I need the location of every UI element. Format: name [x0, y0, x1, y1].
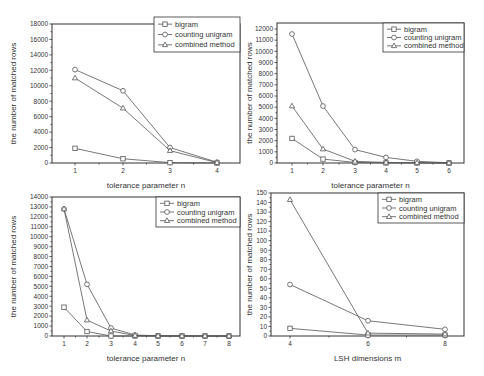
x-tick-label: 2	[321, 167, 325, 174]
y-tick-label: 18000	[30, 20, 48, 27]
legend-label: combined method	[399, 212, 459, 221]
x-tick-label: 2	[121, 167, 125, 174]
x-tick-label: 4	[384, 167, 388, 174]
chart-1: 0200040006000800010000120001400016000180…	[9, 17, 240, 190]
square-marker-icon	[288, 326, 292, 330]
chart-3: 0100020003000400050006000700080009000100…	[9, 193, 240, 363]
triangle-marker-icon	[84, 317, 89, 322]
legend: bigramcounting unigramcombined method	[378, 193, 464, 223]
y-tick-label: 10000	[255, 48, 273, 55]
y-tick-label: 12000	[30, 213, 48, 220]
circle-marker-icon	[366, 318, 371, 323]
y-tick-label: 70	[260, 266, 268, 273]
y-tick-label: 8000	[34, 98, 49, 105]
y-tick-label: 2000	[34, 144, 49, 151]
x-tick-label: 4	[133, 340, 137, 347]
y-tick-label: 150	[256, 189, 267, 196]
series-counting-unigram	[73, 67, 220, 164]
y-tick-label: 3000	[259, 126, 274, 133]
y-tick-label: 10000	[30, 233, 48, 240]
y-tick-label: 100	[256, 237, 267, 244]
y-axis-label: the number of matched rows	[245, 214, 254, 315]
y-tick-label: 13000	[30, 203, 48, 210]
series-line	[64, 209, 229, 336]
y-tick-label: 6000	[259, 92, 274, 99]
legend-square-icon	[387, 197, 391, 201]
series-bigram	[290, 136, 451, 165]
x-tick-label: 1	[62, 340, 66, 347]
series-combined-method	[72, 75, 219, 164]
y-tick-label: 12000	[255, 25, 273, 32]
legend: bigramcounting unigramcombined method	[154, 17, 240, 52]
chart-4: 0102030405060708090100110120130140150468…	[245, 189, 464, 363]
legend-square-icon	[392, 27, 396, 31]
legend-label: counting unigram	[399, 204, 457, 213]
x-tick-label: 1	[73, 167, 77, 174]
y-tick-label: 0	[44, 159, 48, 166]
y-tick-label: 6000	[34, 273, 49, 280]
x-tick-label: 1	[290, 167, 294, 174]
square-marker-icon	[109, 334, 113, 338]
circle-marker-icon	[73, 67, 78, 72]
x-axis-label: LSH dimensions m	[334, 354, 401, 363]
y-axis-label: the number of matched rows	[245, 42, 254, 143]
y-tick-label: 9000	[34, 243, 49, 250]
x-tick-label: 6	[447, 167, 451, 174]
y-tick-label: 16000	[30, 36, 48, 43]
x-tick-label: 4	[288, 340, 292, 347]
y-tick-label: 7000	[259, 81, 274, 88]
y-tick-label: 110	[257, 227, 268, 234]
x-tick-label: 3	[109, 340, 113, 347]
x-axis-label: tolerance parameter n	[107, 354, 185, 363]
y-tick-label: 50	[260, 285, 268, 292]
y-tick-label: 12000	[30, 67, 48, 74]
series-line	[292, 34, 449, 163]
y-tick-label: 140	[256, 199, 267, 206]
y-tick-label: 14000	[30, 193, 48, 200]
y-tick-label: 4000	[259, 115, 274, 122]
circle-marker-icon	[290, 32, 295, 37]
square-marker-icon	[321, 157, 325, 161]
x-tick-label: 4	[215, 167, 219, 174]
legend-label: combined method	[177, 216, 237, 225]
legend-circle-icon	[163, 32, 168, 37]
triangle-marker-icon	[120, 105, 125, 110]
y-tick-label: 14000	[30, 51, 48, 58]
square-marker-icon	[168, 160, 172, 164]
triangle-marker-icon	[289, 103, 294, 108]
circle-marker-icon	[353, 147, 358, 152]
y-tick-label: 1000	[34, 322, 49, 329]
legend-label: bigram	[177, 199, 200, 208]
y-tick-label: 8000	[259, 70, 274, 77]
triangle-marker-icon	[287, 197, 292, 202]
legend-circle-icon	[165, 210, 170, 215]
series-line	[75, 78, 217, 163]
square-marker-icon	[290, 136, 294, 140]
y-tick-label: 7000	[34, 263, 49, 270]
legend: bigramcounting unigramcombined method	[383, 23, 464, 52]
series-line	[292, 138, 449, 163]
y-tick-label: 5000	[34, 283, 49, 290]
square-marker-icon	[62, 305, 66, 309]
y-tick-label: 2000	[34, 312, 49, 319]
x-tick-label: 3	[353, 167, 357, 174]
series-combined-method	[289, 103, 451, 165]
charts-figure: 0200040006000800010000120001400016000180…	[0, 0, 484, 376]
legend-label: bigram	[399, 195, 422, 204]
y-tick-label: 40	[260, 294, 268, 301]
triangle-marker-icon	[72, 75, 77, 80]
series-line	[75, 70, 217, 163]
legend-square-icon	[163, 22, 167, 26]
y-tick-label: 10000	[30, 82, 48, 89]
legend-circle-icon	[392, 35, 397, 40]
circle-marker-icon	[85, 282, 90, 287]
y-axis-label: the number of matched rows	[9, 216, 18, 317]
x-tick-label: 6	[366, 340, 370, 347]
chart-2: 0100020003000400050006000700080009000100…	[245, 23, 464, 190]
y-tick-label: 80	[260, 256, 268, 263]
y-tick-label: 120	[256, 218, 267, 225]
x-tick-label: 3	[168, 167, 172, 174]
y-tick-label: 1000	[259, 148, 274, 155]
x-tick-label: 8	[227, 340, 231, 347]
y-tick-label: 4000	[34, 293, 49, 300]
